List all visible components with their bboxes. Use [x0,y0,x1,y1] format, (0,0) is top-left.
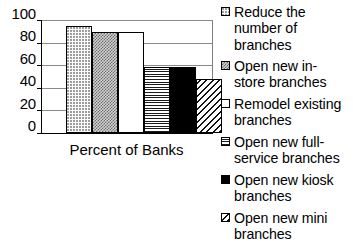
y-tick-label-100: 100 [0,6,36,21]
legend-swatch-light-dots-icon [221,7,230,16]
bar-group [42,20,213,133]
y-tick-label-0: 0 [0,118,36,133]
y-tick-label-60: 60 [0,51,36,66]
plot-area [41,20,213,134]
bar-open-new-kiosk-branches[interactable] [170,67,196,133]
bar-reduce-number-of-branches[interactable] [66,26,92,133]
legend-item-open-new-kiosk-branches[interactable]: Open new kiosk branches [219,172,353,205]
legend-label: Open new in- store branches [234,58,353,91]
bar-remodel-existing-branches[interactable] [118,32,144,133]
legend-item-open-new-full-service-branches[interactable]: Open new full- service branches [219,134,353,167]
x-axis-label: Percent of Banks [41,141,212,158]
y-tick-label-40: 40 [0,73,36,88]
legend-swatch-white-solid-icon [221,99,230,108]
legend-label: Reduce the number of branches [234,4,353,53]
legend-swatch-horizontal-hatch-icon [221,137,230,146]
bar-chart: 100 80 60 40 20 0 [0,0,215,249]
legend: Reduce the number of branches Open new i… [219,4,353,247]
legend-item-remodel-existing-branches[interactable]: Remodel existing branches [219,96,353,129]
legend-swatch-diagonal-stripes-icon [221,213,230,222]
legend-label: Open new full- service branches [234,134,353,167]
legend-swatch-black-solid-icon [221,175,230,184]
y-axis: 100 80 60 40 20 0 [0,14,36,139]
legend-item-open-new-mini-branches[interactable]: Open new mini branches [219,210,353,243]
legend-label: Open new kiosk branches [234,172,353,205]
chart-page: 100 80 60 40 20 0 [0,0,353,249]
y-tick-label-80: 80 [0,28,36,43]
legend-label: Open new mini branches [234,210,353,243]
y-tick-label-20: 20 [0,96,36,111]
legend-item-reduce-number-of-branches[interactable]: Reduce the number of branches [219,4,353,53]
bar-open-new-full-service-branches[interactable] [144,67,170,133]
bar-open-new-in-store-branches[interactable] [92,32,118,133]
legend-swatch-dark-checker-icon [221,61,230,70]
legend-item-open-new-in-store-branches[interactable]: Open new in- store branches [219,58,353,91]
legend-label: Remodel existing branches [234,96,353,129]
